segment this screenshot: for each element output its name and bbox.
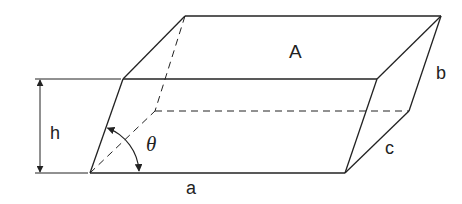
label-angle-theta: θ	[146, 132, 156, 156]
hidden-edge-back-left	[155, 16, 185, 111]
label-depth-edge-c: c	[385, 138, 394, 158]
edge-top-left	[123, 16, 185, 79]
edge-front-right	[345, 79, 377, 173]
label-area-A: A	[289, 41, 302, 62]
label-height-h: h	[50, 123, 60, 143]
edge-bottom-right-c	[345, 111, 409, 173]
angle-arc	[108, 128, 140, 171]
parallelepiped-diagram: A b c a h θ	[0, 0, 462, 204]
edge-front-left	[90, 79, 123, 173]
edge-top-right	[377, 16, 441, 79]
label-slant-edge-b: b	[436, 63, 446, 83]
label-base-edge-a: a	[186, 178, 197, 198]
diagram-svg: A b c a h θ	[0, 0, 462, 204]
